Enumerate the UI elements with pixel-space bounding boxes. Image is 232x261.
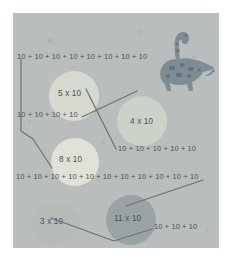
sum-5-label: 10 + 10 + 10 + 10 + 10 (118, 145, 196, 152)
worksheet-canvas: 10 + 10 + 10 + 10 + 10 + 10 + 10 + 10 10… (13, 13, 219, 248)
connector-5 (86, 89, 116, 149)
connector-lines (13, 13, 219, 248)
sum-11-label: 10 + 10 + 10 + 10 + 10 + 10 + 10 + 10 + … (16, 173, 198, 180)
product-11x10-label: 11 x 10 (114, 215, 141, 223)
sum-3-label: 10 + 10 + 10 (154, 223, 197, 230)
product-5x10-label: 5 x 10 (58, 90, 81, 98)
product-4x10-label: 4 x 10 (130, 118, 153, 126)
connector-4 (82, 91, 137, 117)
product-3x10-label: 3 x 10 (40, 218, 63, 226)
sum-8-label: 10 + 10 + 10 + 10 + 10 + 10 + 10 + 10 (17, 53, 147, 60)
connector-11 (126, 180, 203, 206)
sum-4-label: 10 + 10 + 10 + 10 (17, 111, 78, 118)
product-8x10-label: 8 x 10 (59, 156, 82, 164)
